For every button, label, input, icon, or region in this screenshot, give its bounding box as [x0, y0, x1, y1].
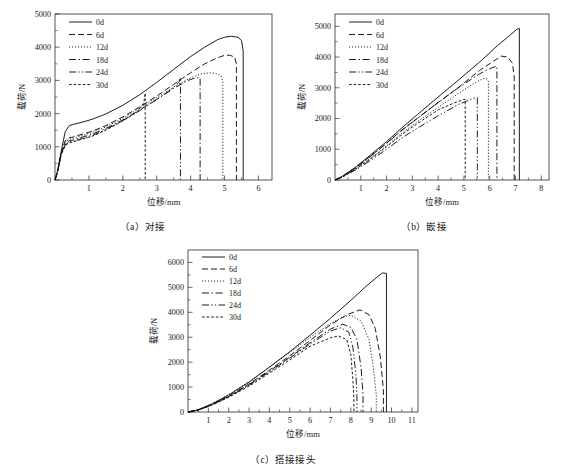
svg-text:3000: 3000	[168, 333, 184, 342]
svg-text:3: 3	[155, 184, 159, 193]
svg-text:0: 0	[47, 176, 51, 185]
svg-text:8: 8	[539, 184, 543, 193]
svg-text:7: 7	[328, 416, 332, 425]
series-0d	[55, 36, 243, 180]
svg-text:3: 3	[410, 184, 414, 193]
svg-text:1000: 1000	[315, 145, 331, 154]
series-18d	[188, 324, 363, 412]
svg-text:位移/mm: 位移/mm	[286, 428, 320, 439]
svg-text:3000: 3000	[315, 84, 331, 93]
legend-label-6d: 6d	[229, 265, 237, 274]
legend-label-12d: 12d	[229, 277, 241, 286]
chart-panel-a: 010002000300040005000123456位移/mm载荷/N0d6d…	[0, 0, 285, 240]
legend-label-18d: 18d	[229, 289, 241, 298]
svg-text:4: 4	[189, 184, 193, 193]
figure-load-displacement-curves: 010002000300040005000123456位移/mm载荷/N0d6d…	[0, 0, 565, 476]
svg-text:4000: 4000	[315, 53, 331, 62]
svg-text:2: 2	[227, 416, 231, 425]
legend-label-0d: 0d	[229, 253, 237, 262]
svg-text:3000: 3000	[35, 76, 51, 85]
svg-text:载荷/N: 载荷/N	[148, 317, 159, 344]
svg-text:位移/mm: 位移/mm	[147, 196, 181, 207]
plot-a: 010002000300040005000123456位移/mm载荷/N0d6d…	[0, 0, 285, 215]
legend-label-18d: 18d	[96, 56, 108, 65]
legend-label-30d: 30d	[229, 313, 241, 322]
legend-label-18d: 18d	[376, 56, 388, 65]
series-30d	[188, 336, 354, 412]
svg-text:5000: 5000	[315, 22, 331, 31]
series-30d	[55, 93, 145, 180]
series-0d	[335, 28, 519, 180]
svg-text:5000: 5000	[168, 283, 184, 292]
svg-text:4000: 4000	[35, 43, 51, 52]
series-12d	[188, 315, 376, 412]
svg-text:8: 8	[349, 416, 353, 425]
legend-label-30d: 30d	[96, 81, 108, 90]
svg-text:1000: 1000	[168, 383, 184, 392]
svg-text:11: 11	[408, 416, 416, 425]
caption-c: （c）搭接接头	[133, 452, 433, 466]
svg-text:4000: 4000	[168, 308, 184, 317]
legend-label-6d: 6d	[96, 31, 104, 40]
svg-text:2000: 2000	[315, 114, 331, 123]
svg-text:2: 2	[385, 184, 389, 193]
svg-text:9: 9	[369, 416, 373, 425]
svg-text:2000: 2000	[35, 110, 51, 119]
legend-label-6d: 6d	[376, 31, 384, 40]
svg-text:0: 0	[327, 176, 331, 185]
legend-label-30d: 30d	[376, 81, 388, 90]
chart-panel-c: 01000200030004000500060001234567891011位移…	[133, 238, 433, 476]
svg-text:10: 10	[387, 416, 395, 425]
series-24d	[188, 328, 357, 412]
legend-label-24d: 24d	[96, 68, 108, 77]
legend-label-0d: 0d	[96, 18, 104, 27]
svg-text:2000: 2000	[168, 358, 184, 367]
svg-text:6: 6	[308, 416, 312, 425]
plot-c: 01000200030004000500060001234567891011位移…	[133, 238, 433, 450]
svg-text:6: 6	[256, 184, 260, 193]
svg-text:4: 4	[436, 184, 440, 193]
chart-panel-b: 01000200030004000500012345678位移/mm载荷/N0d…	[283, 0, 565, 240]
svg-text:5000: 5000	[35, 10, 51, 19]
svg-text:4: 4	[267, 416, 271, 425]
legend-label-12d: 12d	[376, 43, 388, 52]
svg-text:5: 5	[288, 416, 292, 425]
svg-text:7: 7	[513, 184, 517, 193]
svg-text:载荷/N: 载荷/N	[296, 83, 307, 110]
svg-text:1000: 1000	[35, 143, 51, 152]
series-24d	[335, 98, 477, 180]
caption-a: （a）对接	[0, 219, 285, 233]
svg-text:6000: 6000	[168, 258, 184, 267]
svg-text:1: 1	[206, 416, 210, 425]
series-12d	[55, 73, 223, 180]
caption-b: （b）嵌接	[283, 219, 565, 233]
svg-text:位移/mm: 位移/mm	[425, 196, 459, 207]
svg-text:3: 3	[247, 416, 251, 425]
legend-label-0d: 0d	[376, 18, 384, 27]
svg-text:2: 2	[121, 184, 125, 193]
svg-text:6: 6	[488, 184, 492, 193]
svg-text:1: 1	[359, 184, 363, 193]
svg-text:5: 5	[462, 184, 466, 193]
svg-text:0: 0	[180, 408, 184, 417]
legend-label-24d: 24d	[229, 301, 241, 310]
svg-text:5: 5	[222, 184, 226, 193]
svg-text:1: 1	[87, 184, 91, 193]
legend-label-12d: 12d	[96, 43, 108, 52]
series-18d	[55, 78, 200, 180]
series-6d	[55, 55, 236, 180]
plot-b: 01000200030004000500012345678位移/mm载荷/N0d…	[283, 0, 565, 215]
svg-text:载荷/N: 载荷/N	[16, 83, 27, 110]
legend-label-24d: 24d	[376, 68, 388, 77]
